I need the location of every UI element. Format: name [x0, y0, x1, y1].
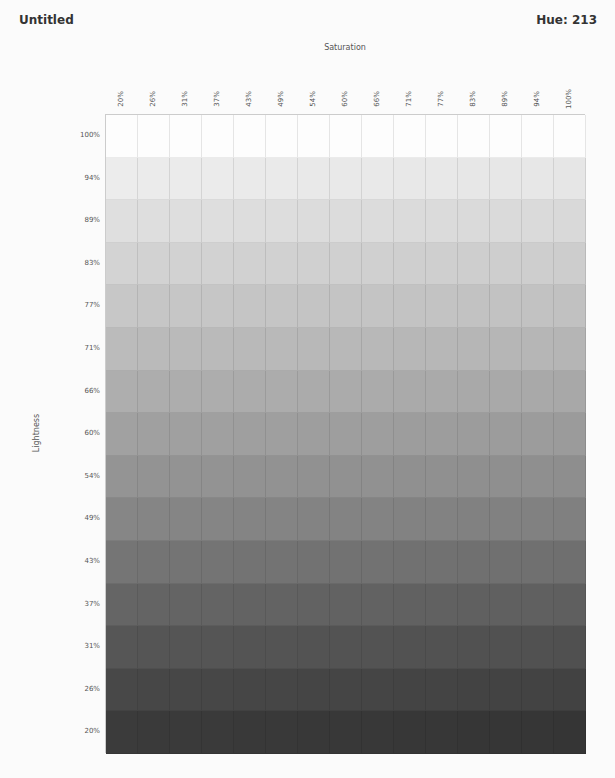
color-swatch[interactable]	[138, 711, 170, 754]
color-swatch[interactable]	[170, 115, 202, 158]
color-swatch[interactable]	[362, 243, 394, 286]
color-swatch[interactable]	[554, 200, 586, 243]
color-swatch[interactable]	[170, 371, 202, 414]
color-swatch[interactable]	[106, 669, 138, 712]
color-swatch[interactable]	[106, 371, 138, 414]
color-swatch[interactable]	[330, 456, 362, 499]
color-swatch[interactable]	[490, 669, 522, 712]
color-swatch[interactable]	[138, 115, 170, 158]
color-swatch[interactable]	[330, 158, 362, 201]
color-swatch[interactable]	[522, 158, 554, 201]
color-swatch[interactable]	[330, 413, 362, 456]
color-swatch[interactable]	[426, 413, 458, 456]
color-swatch[interactable]	[522, 413, 554, 456]
color-swatch[interactable]	[362, 626, 394, 669]
color-swatch[interactable]	[138, 158, 170, 201]
color-swatch[interactable]	[458, 115, 490, 158]
color-swatch[interactable]	[106, 243, 138, 286]
color-swatch[interactable]	[394, 328, 426, 371]
color-swatch[interactable]	[458, 413, 490, 456]
color-swatch[interactable]	[490, 541, 522, 584]
color-swatch[interactable]	[170, 541, 202, 584]
color-swatch[interactable]	[362, 669, 394, 712]
color-swatch[interactable]	[458, 243, 490, 286]
color-swatch[interactable]	[554, 711, 586, 754]
color-swatch[interactable]	[362, 498, 394, 541]
color-swatch[interactable]	[170, 285, 202, 328]
color-swatch[interactable]	[298, 371, 330, 414]
color-swatch[interactable]	[138, 200, 170, 243]
color-swatch[interactable]	[394, 158, 426, 201]
color-swatch[interactable]	[394, 626, 426, 669]
color-swatch[interactable]	[298, 115, 330, 158]
color-swatch[interactable]	[298, 413, 330, 456]
color-swatch[interactable]	[138, 243, 170, 286]
color-swatch[interactable]	[394, 541, 426, 584]
color-swatch[interactable]	[554, 498, 586, 541]
color-swatch[interactable]	[202, 498, 234, 541]
color-swatch[interactable]	[266, 413, 298, 456]
color-swatch[interactable]	[330, 541, 362, 584]
color-swatch[interactable]	[330, 711, 362, 754]
color-swatch[interactable]	[202, 115, 234, 158]
color-swatch[interactable]	[490, 626, 522, 669]
color-swatch[interactable]	[522, 243, 554, 286]
color-swatch[interactable]	[266, 584, 298, 627]
color-swatch[interactable]	[330, 371, 362, 414]
color-swatch[interactable]	[298, 158, 330, 201]
color-swatch[interactable]	[522, 584, 554, 627]
color-swatch[interactable]	[234, 200, 266, 243]
color-swatch[interactable]	[234, 626, 266, 669]
color-swatch[interactable]	[490, 158, 522, 201]
color-swatch[interactable]	[522, 200, 554, 243]
color-swatch[interactable]	[394, 711, 426, 754]
color-swatch[interactable]	[330, 328, 362, 371]
color-swatch[interactable]	[138, 413, 170, 456]
color-swatch[interactable]	[490, 456, 522, 499]
color-swatch[interactable]	[138, 626, 170, 669]
color-swatch[interactable]	[554, 413, 586, 456]
color-swatch[interactable]	[394, 285, 426, 328]
color-swatch[interactable]	[394, 371, 426, 414]
color-swatch[interactable]	[234, 371, 266, 414]
color-swatch[interactable]	[298, 200, 330, 243]
color-swatch[interactable]	[298, 711, 330, 754]
color-swatch[interactable]	[522, 328, 554, 371]
color-swatch[interactable]	[202, 711, 234, 754]
color-swatch[interactable]	[362, 541, 394, 584]
color-swatch[interactable]	[138, 541, 170, 584]
color-swatch[interactable]	[522, 371, 554, 414]
color-swatch[interactable]	[426, 498, 458, 541]
color-swatch[interactable]	[458, 200, 490, 243]
color-swatch[interactable]	[234, 115, 266, 158]
color-swatch[interactable]	[234, 498, 266, 541]
color-swatch[interactable]	[362, 711, 394, 754]
color-swatch[interactable]	[202, 328, 234, 371]
color-swatch[interactable]	[202, 158, 234, 201]
color-swatch[interactable]	[266, 200, 298, 243]
color-swatch[interactable]	[106, 285, 138, 328]
color-swatch[interactable]	[554, 584, 586, 627]
color-swatch[interactable]	[106, 584, 138, 627]
color-swatch[interactable]	[106, 541, 138, 584]
color-swatch[interactable]	[490, 711, 522, 754]
color-swatch[interactable]	[426, 711, 458, 754]
color-swatch[interactable]	[426, 115, 458, 158]
color-swatch[interactable]	[138, 371, 170, 414]
color-swatch[interactable]	[554, 285, 586, 328]
color-swatch[interactable]	[426, 285, 458, 328]
color-swatch[interactable]	[394, 413, 426, 456]
color-swatch[interactable]	[266, 285, 298, 328]
color-swatch[interactable]	[106, 158, 138, 201]
color-swatch[interactable]	[106, 328, 138, 371]
color-swatch[interactable]	[458, 626, 490, 669]
color-swatch[interactable]	[458, 371, 490, 414]
color-swatch[interactable]	[106, 498, 138, 541]
color-swatch[interactable]	[202, 541, 234, 584]
color-swatch[interactable]	[522, 626, 554, 669]
color-swatch[interactable]	[362, 413, 394, 456]
color-swatch[interactable]	[458, 669, 490, 712]
color-swatch[interactable]	[394, 669, 426, 712]
color-swatch[interactable]	[138, 498, 170, 541]
color-swatch[interactable]	[490, 328, 522, 371]
